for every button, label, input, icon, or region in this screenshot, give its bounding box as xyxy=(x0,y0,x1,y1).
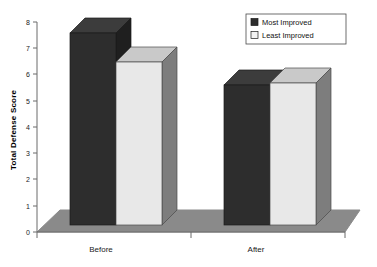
dark-swatch-icon xyxy=(251,19,258,26)
bar-chart-figure: 8 7 6 5 4 3 2 1 0 Total Defense Score xyxy=(0,0,377,267)
y-tick-label-5: 5 xyxy=(26,98,30,105)
bar-side-face xyxy=(162,47,177,225)
legend-label-least-improved: Least Improved xyxy=(262,31,314,40)
bar-before-least-improved[interactable] xyxy=(116,47,177,225)
y-tick-label-2: 2 xyxy=(26,176,30,183)
y-tick-label-1: 1 xyxy=(26,203,30,210)
y-tick-label-0: 0 xyxy=(26,229,30,236)
y-axis-title: Total Defense Score xyxy=(9,90,18,170)
light-swatch-icon xyxy=(251,32,258,39)
x-category-label-after: After xyxy=(248,245,265,254)
y-tick-label-8: 8 xyxy=(26,19,30,26)
x-category-label-before: Before xyxy=(89,245,113,254)
y-tick-label-7: 7 xyxy=(26,45,30,52)
y-tick-label-4: 4 xyxy=(26,124,30,131)
bar-front-face xyxy=(224,85,270,225)
chart-canvas: 8 7 6 5 4 3 2 1 0 Total Defense Score xyxy=(0,0,377,267)
y-tick-label-6: 6 xyxy=(26,71,30,78)
legend-label-most-improved: Most Improved xyxy=(262,18,312,27)
bar-front-face xyxy=(116,62,162,225)
bar-side-face xyxy=(316,68,331,225)
bar-front-face xyxy=(270,83,316,225)
bar-front-face xyxy=(70,33,116,225)
y-tick-label-3: 3 xyxy=(26,150,30,157)
bar-after-least-improved[interactable] xyxy=(270,68,331,225)
chart-legend: Most Improved Least Improved xyxy=(246,14,346,44)
